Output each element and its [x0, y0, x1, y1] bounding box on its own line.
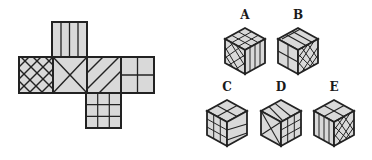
net-face-middle-right — [87, 57, 121, 93]
option-b-label: B — [288, 8, 308, 22]
net-face-left — [19, 57, 53, 93]
option-e-cube[interactable] — [314, 100, 354, 146]
option-d-cube[interactable] — [261, 100, 301, 146]
option-d-label: D — [271, 80, 291, 94]
option-e-label: E — [324, 80, 344, 94]
net-face-top — [52, 22, 87, 57]
option-c-label: C — [217, 80, 237, 94]
puzzle-graphic — [0, 0, 372, 160]
puzzle-figure: A B C D E — [0, 0, 372, 160]
net-face-center — [53, 57, 87, 93]
option-c-cube[interactable] — [207, 100, 247, 146]
option-a-cube[interactable] — [225, 28, 265, 74]
net-face-far-right — [121, 57, 154, 93]
cube-net — [19, 22, 154, 128]
option-a-label: A — [235, 8, 255, 22]
option-b-cube[interactable] — [278, 28, 318, 74]
net-face-bottom — [86, 93, 121, 128]
